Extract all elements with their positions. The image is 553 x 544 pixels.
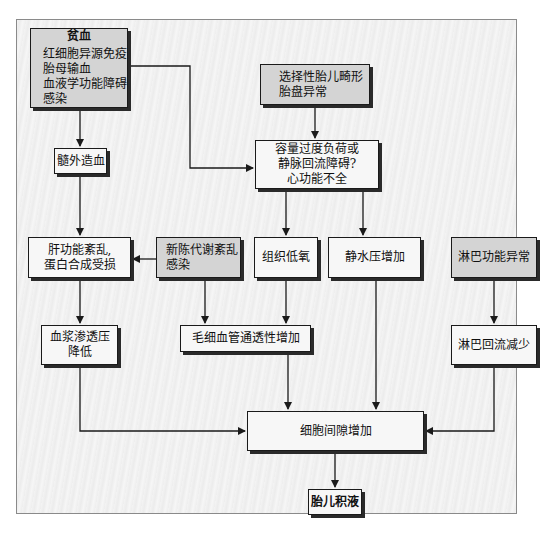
- node-fetal-hydrops: 胎儿积液: [308, 489, 362, 515]
- node-extramedullary-hematopoiesis: 髓外造血: [54, 148, 107, 174]
- node-label: 髓外造血: [57, 154, 105, 169]
- node-volume-line: 容量过度负荷或: [275, 142, 359, 157]
- node-anemia-line: 感染: [43, 92, 67, 107]
- node-malformation: 选择性胎儿畸形 胎盘异常: [260, 64, 370, 105]
- node-anemia: 贫血 红细胞异源免疫 胎母输血 血液学功能障碍 感染: [30, 28, 128, 108]
- node-volume-overload: 容量过度负荷或 静脉回流障碍? 心功能不全: [255, 140, 379, 189]
- node-volume-line: 心功能不全: [287, 172, 347, 187]
- node-volume-line: 静脉回流障碍?: [278, 157, 356, 172]
- node-capillary-permeability: 毛细血管通透性增加: [180, 325, 311, 352]
- node-liver-dysfunction: 肝功能紊乱, 蛋白合成受损: [28, 237, 131, 278]
- node-metabolic-line: 新陈代谢紊乱: [166, 243, 238, 258]
- node-label: 细胞间隙增加: [300, 424, 372, 439]
- node-tissue-hypoxia: 组织低氧: [254, 237, 318, 278]
- node-anemia-title: 贫血: [67, 29, 91, 44]
- node-oncotic-pressure: 血浆渗透压 降低: [41, 325, 118, 365]
- node-label: 组织低氧: [262, 250, 310, 265]
- node-anemia-line: 胎母输血: [43, 62, 91, 77]
- node-metabolic-disorder: 新陈代谢紊乱 感染: [156, 237, 241, 278]
- node-malformation-line: 选择性胎儿畸形: [279, 70, 363, 85]
- node-anemia-line: 血液学功能障碍: [43, 77, 127, 92]
- node-malformation-line: 胎盘异常: [279, 85, 327, 100]
- node-liver-line: 蛋白合成受损: [44, 258, 116, 273]
- node-interstitial-increase: 细胞间隙增加: [247, 411, 424, 451]
- node-oncotic-line: 降低: [68, 345, 92, 360]
- node-metabolic-line: 感染: [166, 258, 190, 273]
- node-anemia-line: 红细胞异源免疫: [43, 47, 127, 62]
- node-label: 毛细血管通透性增加: [192, 331, 300, 346]
- node-lymph-dysfunction: 淋巴功能异常: [451, 237, 537, 278]
- node-label: 淋巴功能异常: [458, 250, 530, 265]
- node-label: 淋巴回流减少: [458, 338, 530, 353]
- node-label: 胎儿积液: [311, 495, 359, 510]
- node-label: 静水压增加: [345, 250, 405, 265]
- node-lymph-return-reduced: 淋巴回流减少: [451, 325, 537, 365]
- node-oncotic-line: 血浆渗透压: [50, 330, 110, 345]
- node-hydrostatic-pressure: 静水压增加: [328, 237, 421, 278]
- node-liver-line: 肝功能紊乱,: [48, 243, 112, 258]
